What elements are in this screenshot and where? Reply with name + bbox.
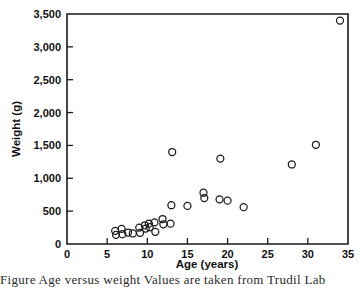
data-point [152,228,159,235]
y-axis-title: Weight (g) [10,101,22,157]
data-point [167,220,174,227]
y-tick-label: 3,000 [33,41,61,53]
y-tick-label: 2,000 [33,107,61,119]
data-point [288,161,295,168]
plot-frame [67,14,348,244]
data-point [224,197,231,204]
x-tick-label: 0 [64,248,70,260]
data-point [168,202,175,209]
x-axis-ticks: 05101520253035 [64,238,354,260]
data-point [184,202,191,209]
data-point [312,141,319,148]
y-tick-label: 3,500 [33,8,61,20]
x-tick-label: 5 [104,248,110,260]
data-point [240,204,247,211]
data-points [112,17,344,238]
figure-caption: Figure Age versus weight Values are take… [0,272,364,288]
x-tick-label: 30 [302,248,314,260]
y-tick-label: 1,000 [33,172,61,184]
data-point [336,17,343,24]
x-tick-label: 35 [342,248,354,260]
y-tick-label: 0 [55,238,61,250]
x-tick-label: 25 [262,248,274,260]
y-tick-label: 1,500 [33,139,61,151]
y-tick-label: 2,500 [33,74,61,86]
x-tick-label: 10 [141,248,153,260]
scatter-plot: 05001,0001,5002,0002,5003,0003,500 05101… [0,0,364,270]
data-point [129,230,136,237]
data-point [169,149,176,156]
data-point [217,155,224,162]
y-tick-label: 500 [43,205,61,217]
x-axis-title: Age (years) [176,258,239,270]
data-point [216,196,223,203]
figure-container: 05001,0001,5002,0002,5003,0003,500 05101… [0,0,364,288]
plot-svg: 05001,0001,5002,0002,5003,0003,500 05101… [0,0,364,270]
